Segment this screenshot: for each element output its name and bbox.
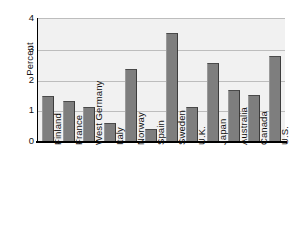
x-tick-label: Norway — [135, 112, 146, 145]
y-axis-tick-labels: 01234 — [18, 0, 34, 228]
x-tick-label: Finland — [52, 113, 63, 145]
y-tick-label: 0 — [18, 136, 34, 146]
x-tick-label: West Germany — [93, 81, 104, 145]
y-tick-label: 4 — [18, 13, 34, 23]
x-tick-label: U.S. — [279, 126, 290, 145]
x-tick-label: Canada — [258, 111, 269, 145]
bar-chart: Percent 01234 FinlandFranceWest GermanyI… — [0, 0, 294, 228]
y-tick-label: 3 — [18, 44, 34, 54]
x-axis-tick-labels: FinlandFranceWest GermanyItalyNorwaySpai… — [38, 143, 285, 228]
y-axis-line — [37, 18, 38, 142]
x-tick-label: Spain — [155, 120, 166, 145]
x-tick-label: France — [73, 115, 84, 145]
y-tick-label: 1 — [18, 105, 34, 115]
x-tick-label: Sweden — [176, 110, 187, 145]
x-tick-label: Australia — [238, 107, 249, 145]
y-tick-label: 2 — [18, 75, 34, 85]
x-tick-label: Italy — [114, 127, 125, 145]
x-tick-label: U.K. — [196, 126, 207, 145]
x-tick-label: Japan — [217, 119, 228, 145]
